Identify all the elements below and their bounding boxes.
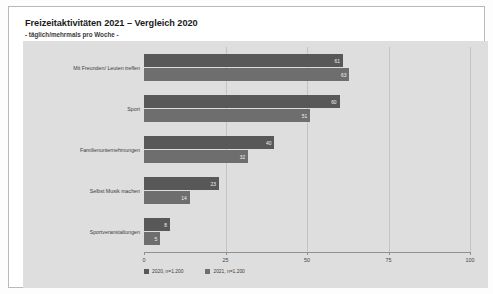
x-tick-label: 25	[223, 257, 229, 263]
x-tick-label: 0	[143, 257, 146, 263]
bar-value-label: 40	[266, 140, 271, 145]
legend-swatch-icon	[144, 269, 149, 274]
bar-value-label: 5	[155, 236, 158, 241]
x-tick-label: 100	[466, 257, 475, 263]
category-label: Selbst Musik machen	[90, 188, 140, 194]
category-label: Sport	[127, 106, 140, 112]
x-tick-label: 75	[386, 257, 392, 263]
gridline	[389, 47, 390, 252]
bar-value-label: 32	[240, 154, 245, 159]
gridline	[470, 47, 471, 252]
chart-frame: Freizeitaktivitäten 2021 – Vergleich 202…	[8, 6, 485, 288]
category-label: Sportveranstaltungen	[90, 229, 140, 235]
bar: 32	[144, 150, 248, 163]
bar: 5	[144, 232, 160, 245]
x-tick	[389, 252, 390, 255]
bar: 40	[144, 136, 274, 149]
bar-value-label: 14	[181, 195, 186, 200]
legend-item[interactable]: 2021, n=1.200	[205, 269, 244, 274]
bar-value-label: 51	[302, 113, 307, 118]
category-label: Mit Freunden/ Leuten treffen	[73, 65, 140, 71]
chart-subtitle: - täglich/mehrmals pro Woche -	[25, 31, 119, 38]
bar: 60	[144, 95, 340, 108]
chart-title: Freizeitaktivitäten 2021 – Vergleich 202…	[25, 18, 198, 28]
bar: 23	[144, 177, 219, 190]
plot-area: 0255075100 Mit Freunden/ Leuten treffenS…	[23, 41, 488, 288]
category-label: Familienunternehmungen	[80, 147, 140, 153]
bar-value-label: 23	[211, 181, 216, 186]
x-tick-label: 50	[304, 257, 310, 263]
bar-value-label: 60	[331, 99, 336, 104]
bar: 63	[144, 68, 349, 81]
bar-value-label: 61	[334, 58, 339, 63]
bar-value-label: 8	[164, 222, 167, 227]
legend-swatch-icon	[205, 269, 210, 274]
x-tick	[226, 252, 227, 255]
legend-label: 2020, n=1.200	[152, 269, 183, 274]
x-tick	[307, 252, 308, 255]
legend-item[interactable]: 2020, n=1.200	[144, 269, 183, 274]
bar: 14	[144, 191, 190, 204]
bar: 61	[144, 54, 343, 67]
x-tick	[470, 252, 471, 255]
x-tick	[144, 252, 145, 255]
bar: 8	[144, 218, 170, 231]
legend-label: 2021, n=1.200	[213, 269, 244, 274]
chart-legend: 2020, n=1.2002021, n=1.200	[144, 269, 245, 274]
chart-page: Freizeitaktivitäten 2021 – Vergleich 202…	[0, 0, 493, 294]
bar-value-label: 63	[341, 72, 346, 77]
bar: 51	[144, 109, 310, 122]
